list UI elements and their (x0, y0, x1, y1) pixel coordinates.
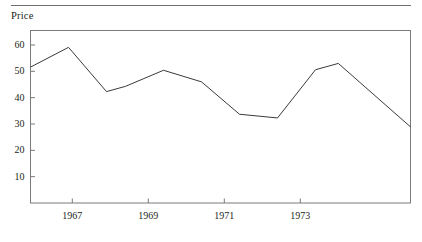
y-tick-label: 10 (5, 172, 25, 182)
x-tick-label: 1973 (280, 211, 320, 221)
line-chart-plot (0, 0, 422, 242)
price-series-line (31, 47, 411, 127)
x-tick-label: 1967 (52, 211, 92, 221)
y-tick-label: 60 (5, 40, 25, 50)
plot-frame (31, 31, 411, 204)
y-tick-label: 40 (5, 93, 25, 103)
x-tick-marks (72, 199, 300, 204)
x-tick-label: 1969 (128, 211, 168, 221)
y-tick-label: 20 (5, 145, 25, 155)
figure-canvas: Price 102030405060 1967196919711973 (0, 0, 422, 242)
y-tick-label: 50 (5, 66, 25, 76)
y-tick-label: 30 (5, 119, 25, 129)
x-tick-label: 1971 (204, 211, 244, 221)
